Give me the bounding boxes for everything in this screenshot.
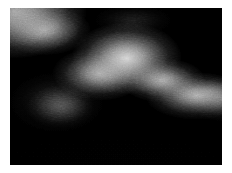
intensity-field-plot	[10, 8, 222, 165]
intensity-blob-field	[10, 8, 222, 165]
figure-viewport	[0, 0, 232, 173]
